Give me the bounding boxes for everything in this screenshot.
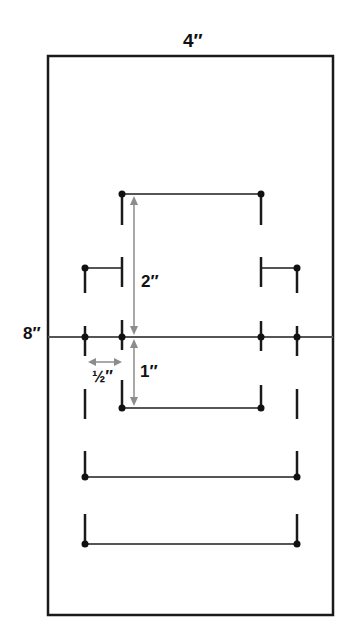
- wide-bar-1: [82, 451, 301, 481]
- dimension-label-half-in: ½″: [92, 368, 113, 386]
- left-bracket: [82, 257, 123, 293]
- board-width-label: 4″: [183, 30, 203, 52]
- board-outline: [48, 56, 333, 615]
- board-height-label: 8″: [23, 324, 41, 344]
- top-bar: [119, 191, 265, 226]
- dimension-label-1in: 1″: [140, 362, 158, 382]
- dimension-arrow-half-in: [88, 358, 122, 366]
- lower-inner-bar: [119, 380, 265, 412]
- dimension-label-2in: 2″: [141, 272, 159, 292]
- wide-bar-2: [82, 514, 301, 548]
- outer-dashes: [85, 389, 297, 419]
- right-bracket: [261, 257, 301, 293]
- dimension-arrow-2in: [130, 196, 138, 335]
- layout-diagram: [0, 0, 351, 643]
- dimension-arrow-1in: [130, 339, 138, 406]
